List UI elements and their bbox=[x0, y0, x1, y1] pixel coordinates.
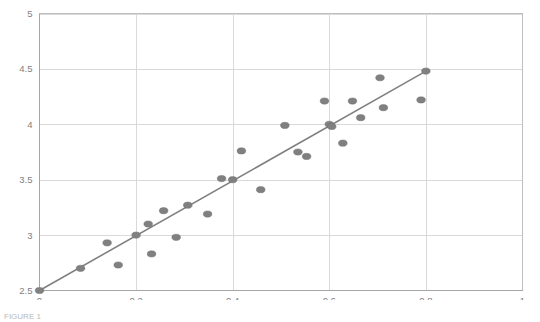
figure-caption: FIGURE 1 bbox=[4, 312, 524, 322]
figure-container: 2.533.544.55 00.20.40.60.81 FIGURE 1 bbox=[0, 0, 540, 322]
x-axis-tick-labels: 00.20.40.60.81 bbox=[37, 295, 525, 301]
y-axis-tick-label: 4.5 bbox=[19, 63, 32, 74]
data-point bbox=[356, 115, 365, 121]
data-point bbox=[302, 153, 311, 159]
data-point bbox=[228, 177, 237, 183]
data-point bbox=[114, 262, 123, 268]
data-point bbox=[256, 187, 265, 193]
y-axis-tick-labels: 2.533.544.55 bbox=[19, 8, 32, 296]
y-axis-tick-label: 4 bbox=[27, 119, 32, 130]
data-point bbox=[327, 123, 336, 129]
x-axis-tick-label: 1 bbox=[520, 295, 525, 301]
data-point bbox=[294, 149, 303, 155]
data-point bbox=[147, 251, 156, 257]
data-point bbox=[159, 208, 168, 214]
x-axis-tick-label: 0.8 bbox=[419, 295, 432, 301]
x-axis-tick-label: 0 bbox=[37, 295, 42, 301]
y-axis-tick-label: 3.5 bbox=[19, 174, 32, 185]
x-axis-tick-label: 0.6 bbox=[323, 295, 336, 301]
data-point bbox=[144, 221, 153, 227]
data-point bbox=[172, 234, 181, 240]
scatter-chart: 2.533.544.55 00.20.40.60.81 bbox=[0, 0, 540, 300]
data-point bbox=[348, 98, 357, 104]
data-point bbox=[281, 122, 290, 128]
data-point bbox=[339, 140, 348, 146]
y-axis-tick-label: 2.5 bbox=[19, 285, 32, 296]
data-point bbox=[132, 232, 141, 238]
data-point bbox=[237, 148, 246, 154]
data-point bbox=[379, 105, 388, 111]
y-axis-tick-label: 5 bbox=[27, 8, 32, 19]
data-point bbox=[203, 211, 212, 217]
x-axis-tick-label: 0.2 bbox=[129, 295, 142, 301]
data-point bbox=[76, 265, 85, 271]
data-point bbox=[422, 68, 431, 74]
data-point bbox=[183, 202, 192, 208]
data-point bbox=[417, 97, 426, 103]
data-point bbox=[376, 75, 385, 81]
x-axis-tick-label: 0.4 bbox=[226, 295, 239, 301]
plot-svg: 2.533.544.55 00.20.40.60.81 bbox=[0, 0, 540, 300]
data-point bbox=[35, 287, 44, 293]
data-point bbox=[320, 98, 329, 104]
data-point bbox=[103, 240, 112, 246]
y-axis-tick-label: 3 bbox=[27, 230, 32, 241]
data-point bbox=[217, 175, 226, 181]
